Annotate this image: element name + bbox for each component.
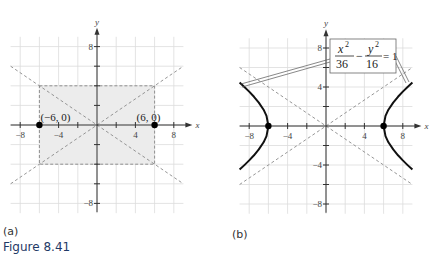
x-tick-label: 8 [401,131,406,141]
y-tick-label: 4 [318,82,323,92]
x-tick-label: −4 [283,131,293,141]
x-tick-label: −8 [15,130,25,140]
eq-x-numerator: x [337,42,344,56]
x-tick-label: 4 [362,131,367,141]
y-tick-label: −8 [312,199,322,209]
figure-caption: Figure 8.41 [3,240,70,254]
figure-8-41: xy −8−4488−8 (−6, 0)(6, 0) xy −8−44884−4… [0,0,436,258]
panel-a-graph: xy −8−4488−8 (−6, 0)(6, 0) [11,17,200,213]
vertex-label: (−6, 0) [40,111,70,124]
x-axis-label: x [194,120,199,130]
y-axis-label: y [323,18,328,28]
callout-line-left [241,59,330,84]
x-axis-label: x [423,121,428,131]
panel-b-label: (b) [232,228,248,241]
panel-b-graph: xy −8−44884−4−8 x 2 36 − y 2 16 = 1 [240,18,429,214]
x-tick-label: −4 [54,130,64,140]
x-tick-label: −8 [244,131,254,141]
vertex-point [265,123,271,129]
eq-y-numerator: y [367,42,374,56]
y-axis-arrow-icon [95,28,100,35]
y-tick-label: 8 [89,42,94,52]
eq-y-denominator: 16 [366,57,378,71]
x-tick-label: 4 [133,130,138,140]
eq-rhs: = 1 [383,50,397,62]
eq-x-denominator: 36 [336,57,348,71]
x-tick-label: 8 [172,130,177,140]
panel-a-label: (a) [3,225,18,238]
x-axis-arrow-icon [414,124,421,129]
vertex-label: (6, 0) [137,111,161,124]
eq-y-exponent: 2 [375,40,379,49]
y-tick-label: −4 [312,160,322,170]
y-tick-label: −8 [83,198,93,208]
y-tick-label: 8 [318,43,323,53]
eq-x-exponent: 2 [345,40,349,49]
x-axis-arrow-icon [185,123,192,128]
eq-minus: − [356,49,363,63]
y-axis-label: y [94,17,99,27]
y-axis-arrow-icon [324,29,329,36]
vertex-point [380,123,386,129]
